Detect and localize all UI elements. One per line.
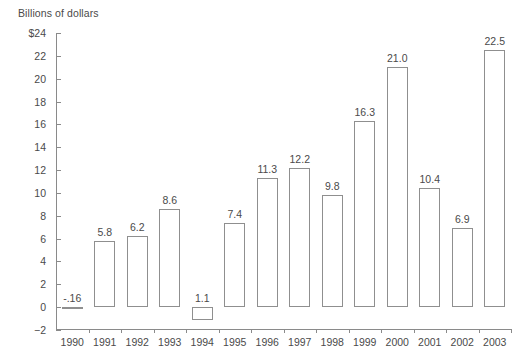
- bar-value-label: 6.2: [114, 221, 161, 233]
- y-axis-tick: [56, 284, 61, 285]
- y-axis-tick: [56, 33, 61, 34]
- bar[interactable]: [257, 178, 278, 307]
- x-axis-tick-label: 1999: [349, 336, 382, 348]
- bar-value-label: 10.4: [407, 173, 454, 185]
- x-axis-tick: [349, 329, 350, 333]
- x-axis-tick: [219, 329, 220, 333]
- x-axis-tick-label: 1993: [154, 336, 187, 348]
- x-axis-tick: [446, 329, 447, 333]
- x-axis-tick: [381, 329, 382, 333]
- y-axis-tick: [56, 307, 61, 308]
- x-axis-tick: [89, 329, 90, 333]
- bar-value-label: -.16: [49, 292, 96, 304]
- x-axis-tick: [414, 329, 415, 333]
- x-axis-tick-label: 1998: [316, 336, 349, 348]
- x-axis-tick: [316, 329, 317, 333]
- y-axis-tick: [56, 79, 61, 80]
- bar[interactable]: [94, 241, 115, 307]
- x-axis-tick: [284, 329, 285, 333]
- bar-value-label: 8.6: [147, 194, 194, 206]
- x-axis-tick-label: 1991: [89, 336, 122, 348]
- bar[interactable]: [289, 168, 310, 307]
- x-axis-tick: [511, 329, 512, 333]
- bar[interactable]: [387, 67, 408, 307]
- x-axis-tick-label: 2001: [414, 336, 447, 348]
- bar[interactable]: [419, 188, 440, 307]
- bar-value-label: 16.3: [342, 106, 389, 118]
- x-axis-tick-label: 1995: [219, 336, 252, 348]
- plot-area: −20246810121416182022$24 -.165.86.28.61.…: [56, 33, 511, 330]
- bar-value-label: 22.5: [472, 35, 519, 47]
- y-axis-line: [56, 33, 57, 330]
- bar-value-label: 11.3: [244, 163, 291, 175]
- bar-value-label: 7.4: [212, 208, 259, 220]
- bar-value-label: 12.2: [277, 153, 324, 165]
- bar-value-label: 6.9: [439, 213, 486, 225]
- x-axis-tick-label: 2002: [446, 336, 479, 348]
- x-axis-tick-label: 1997: [284, 336, 317, 348]
- y-axis-tick: [56, 102, 61, 103]
- x-axis-tick-label: 1994: [186, 336, 219, 348]
- x-axis-tick: [121, 329, 122, 333]
- y-axis-tick: [56, 147, 61, 148]
- y-axis-tick: [56, 330, 61, 331]
- y-axis-title: Billions of dollars: [18, 7, 99, 19]
- bar[interactable]: [322, 195, 343, 307]
- x-axis-tick: [154, 329, 155, 333]
- y-axis-tick: [56, 56, 61, 57]
- bar[interactable]: [354, 121, 375, 307]
- bar-chart: Billions of dollars −2024681012141618202…: [0, 0, 522, 359]
- bar[interactable]: [62, 307, 83, 309]
- bar[interactable]: [127, 236, 148, 307]
- bar-value-label: 21.0: [374, 52, 421, 64]
- x-axis-tick-label: 1992: [121, 336, 154, 348]
- x-axis-tick: [479, 329, 480, 333]
- x-axis-tick: [251, 329, 252, 333]
- y-axis-tick: [56, 193, 61, 194]
- x-axis-tick-label: 1990: [56, 336, 89, 348]
- y-axis-tick: [56, 124, 61, 125]
- y-axis-tick: [56, 216, 61, 217]
- y-axis-tick: [56, 261, 61, 262]
- x-axis-tick: [186, 329, 187, 333]
- y-axis-tick: [56, 170, 61, 171]
- y-axis-tick: [56, 239, 61, 240]
- bar[interactable]: [452, 228, 473, 307]
- x-axis-tick-label: 2000: [381, 336, 414, 348]
- bar[interactable]: [192, 307, 213, 320]
- bar[interactable]: [484, 50, 505, 307]
- bar[interactable]: [224, 223, 245, 308]
- bar[interactable]: [159, 209, 180, 307]
- x-axis-tick-label: 1996: [251, 336, 284, 348]
- bar-value-label: 9.8: [309, 180, 356, 192]
- bar-value-label: 1.1: [179, 292, 226, 304]
- x-axis-tick-label: 2003: [479, 336, 512, 348]
